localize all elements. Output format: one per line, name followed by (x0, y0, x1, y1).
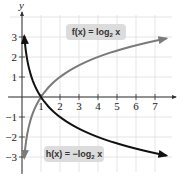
y-tick-label: −1 (5, 111, 17, 123)
x-tick-label: 6 (133, 100, 139, 112)
y-tick-label: −3 (5, 151, 17, 163)
f-curve (24, 38, 166, 158)
h-curve (24, 36, 166, 156)
y-tick-label: 3 (12, 31, 18, 43)
x-tick-label: 7 (152, 100, 158, 112)
x-tick-label: 3 (76, 100, 82, 112)
y-tick-label: 1 (12, 71, 18, 83)
f-label: f(x) = log2 x (72, 27, 121, 38)
x-tick-label: 5 (114, 100, 120, 112)
y-tick-label: −2 (5, 131, 17, 143)
y-axis-label: y (18, 0, 24, 11)
function-labels: f(x) = log2 xh(x) = −log2 x (44, 24, 126, 162)
x-tick-label: 2 (57, 100, 63, 112)
h-label: h(x) = −log2 x (46, 149, 102, 160)
x-tick-label: 4 (95, 100, 101, 112)
y-tick-label: 2 (12, 51, 18, 63)
log-function-chart: y 1234567321−1−2−3 f(x) = log2 xh(x) = −… (0, 0, 181, 179)
